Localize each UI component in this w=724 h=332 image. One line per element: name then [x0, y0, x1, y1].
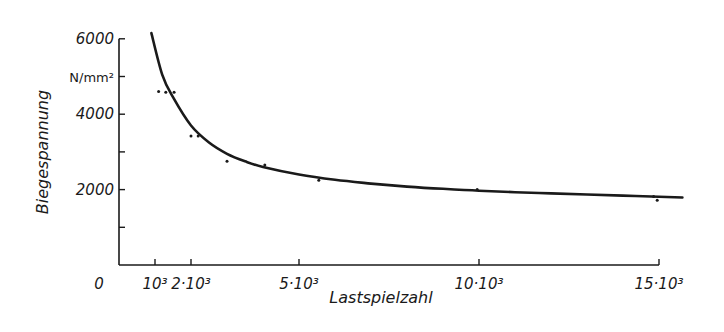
data-point	[263, 164, 266, 167]
x-tick-label: 5·10³	[279, 275, 318, 293]
data-point	[173, 91, 176, 94]
x-tick-label: 10³	[142, 275, 167, 293]
data-point	[197, 135, 200, 138]
x-axis-title: Lastspielzahl	[329, 288, 433, 307]
data-point	[164, 91, 167, 94]
data-point	[157, 90, 160, 93]
y-axis-title: Biegespannung	[33, 90, 52, 214]
woehler-chart: 20004000N/mm²6000 010³2·10³5·10³10·10³15…	[0, 0, 724, 332]
x-tick-label: 10·10³	[455, 275, 504, 293]
y-unit-label: N/mm²	[69, 70, 114, 85]
data-point	[476, 188, 479, 191]
x-tick-label: 0	[94, 275, 104, 293]
y-tick-label: 6000	[76, 30, 114, 48]
y-tick-label: 2000	[76, 181, 114, 199]
y-axis-ticks: 20004000N/mm²6000	[69, 30, 125, 228]
axes	[119, 39, 659, 265]
data-point	[226, 160, 229, 163]
data-point	[317, 179, 320, 182]
data-point	[656, 199, 659, 202]
x-tick-label: 2·10³	[171, 275, 210, 293]
fitted-curve	[151, 33, 682, 197]
y-tick-label: 4000	[76, 105, 114, 123]
x-tick-label: 15·10³	[635, 275, 684, 293]
data-points	[157, 90, 659, 202]
data-point	[652, 195, 655, 198]
data-point	[190, 135, 193, 138]
